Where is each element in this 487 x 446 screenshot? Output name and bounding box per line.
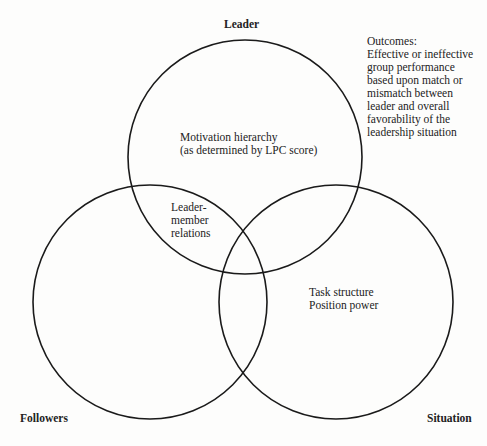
outcomes-line: favorability of the: [367, 113, 473, 126]
task-structure-text: Task structure Position power: [309, 286, 378, 312]
motivation-hierarchy-text: Motivation hierarchy (as determined by L…: [180, 131, 317, 157]
followers-label: Followers: [20, 412, 68, 425]
task-line: Position power: [309, 299, 378, 312]
task-line: Task structure: [309, 286, 378, 299]
outcomes-line: Effective or ineffective: [367, 48, 473, 61]
outcomes-line: Outcomes:: [367, 35, 473, 48]
relations-line: relations: [171, 227, 211, 240]
outcomes-line: group performance: [367, 61, 473, 74]
outcomes-line: mismatch between: [367, 87, 473, 100]
outcomes-line: leadership situation: [367, 126, 473, 139]
motivation-line: Motivation hierarchy: [180, 131, 317, 144]
relations-line: Leader-: [171, 201, 211, 214]
outcomes-line: leader and overall: [367, 100, 473, 113]
outcomes-line: based upon match or: [367, 74, 473, 87]
relations-line: member: [171, 214, 211, 227]
venn-diagram: Leader Followers Situation Outcomes: Eff…: [0, 0, 487, 446]
followers-circle: [33, 185, 267, 419]
outcomes-text: Outcomes: Effective or ineffective group…: [367, 35, 473, 139]
leader-circle: [128, 40, 362, 274]
leader-label: Leader: [224, 18, 259, 31]
motivation-line: (as determined by LPC score): [180, 144, 317, 157]
leader-member-relations-text: Leader- member relations: [171, 201, 211, 240]
situation-label: Situation: [427, 412, 472, 425]
